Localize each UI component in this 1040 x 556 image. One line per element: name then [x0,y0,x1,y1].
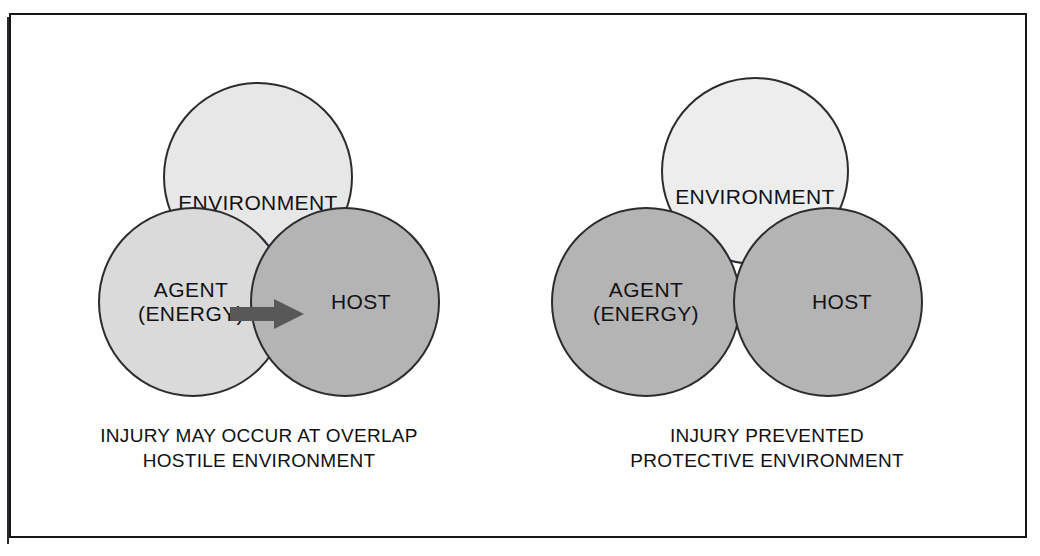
panel-protective-environment: ENVIRONMENT AGENT (ENERGY) HOST INJURY P… [521,15,1029,540]
circle-label-environment: ENVIRONMENT [675,185,835,209]
circle-label-agent: AGENT (ENERGY) [138,278,244,325]
circle-label-agent: AGENT (ENERGY) [593,278,699,325]
venn-diagram-hostile: ENVIRONMENT AGENT (ENERGY) HOST [11,15,521,415]
caption-hostile-environment: INJURY MAY OCCUR AT OVERLAP HOSTILE ENVI… [4,423,514,474]
energy-transfer-arrow-icon [230,299,304,329]
circle-host-protective: HOST [733,207,923,397]
circle-agent-protective: AGENT (ENERGY) [551,207,741,397]
caption-line-1: INJURY PREVENTED [513,423,1021,448]
circle-label-host: HOST [331,290,391,314]
caption-protective-environment: INJURY PREVENTED PROTECTIVE ENVIRONMENT [513,423,1021,474]
caption-line-2: PROTECTIVE ENVIRONMENT [513,448,1021,473]
figure-frame: ENVIRONMENT AGENT (ENERGY) HOST INJURY M… [9,13,1027,538]
panel-hostile-environment: ENVIRONMENT AGENT (ENERGY) HOST INJURY M… [11,15,521,540]
caption-line-1: INJURY MAY OCCUR AT OVERLAP [4,423,514,448]
circle-label-host: HOST [812,290,872,314]
venn-diagram-protective: ENVIRONMENT AGENT (ENERGY) HOST [521,15,1029,415]
figure-page: ENVIRONMENT AGENT (ENERGY) HOST INJURY M… [0,0,1040,556]
caption-line-2: HOSTILE ENVIRONMENT [4,448,514,473]
